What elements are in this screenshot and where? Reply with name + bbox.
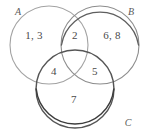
region-label-a-and-b: 2 (72, 29, 78, 41)
region-label-b-only: 6, 8 (103, 29, 121, 41)
set-c-circle (36, 50, 114, 128)
region-label-b-and-c: 5 (92, 65, 98, 77)
region-label-a-only: 1, 3 (25, 29, 43, 41)
set-a-circle (10, 6, 88, 84)
set-label-b: B (128, 6, 134, 17)
set-label-a: A (15, 6, 21, 17)
venn-circles-group (0, 0, 148, 134)
set-label-c: C (125, 117, 132, 128)
region-label-c-only: 7 (71, 93, 77, 105)
region-label-a-and-c: 4 (51, 65, 57, 77)
venn-diagram: A B C 1, 3 2 6, 8 4 5 7 (0, 0, 148, 134)
set-b-circle (61, 6, 139, 84)
